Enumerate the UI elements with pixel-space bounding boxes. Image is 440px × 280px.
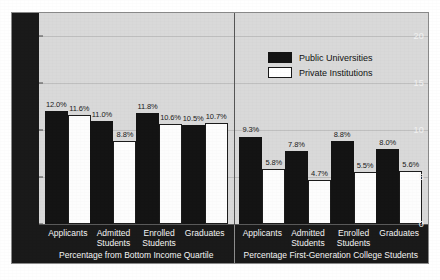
bar-value-label: 12.0% [46,101,67,109]
y-axis-tick-label: 10 [414,125,424,134]
legend-item-public: Public Universities [268,51,400,64]
grouped-bar-chart: 12.0%11.6%11.0%8.8%11.8%10.6%10.5%10.7%9… [0,0,440,280]
bar-value-label: 5.8% [265,159,282,167]
category-label: AdmittedStudents [97,229,131,248]
plot-area: 12.0%11.6%11.0%8.8%11.8%10.6%10.5%10.7%9… [39,13,428,225]
y-axis-tick-label: 0 [419,220,424,229]
bar-value-label: 4.7% [311,170,328,178]
y-axis-tick-label: 20 [414,31,424,40]
category-label: AdmittedStudents [291,229,325,248]
category-label-line: Students [142,239,176,249]
panel-title: Percentage from Bottom Income Quartile [59,250,214,260]
bar-public [239,137,262,225]
panel-divider-band [234,225,235,263]
panel-divider [234,13,235,225]
legend-swatch-public-icon [268,52,292,63]
bar-private [205,123,228,224]
category-label: Graduates [185,229,225,239]
category-label: Applicants [48,229,87,239]
category-label: Applicants [243,229,282,239]
category-label-line: Graduates [379,229,419,239]
chart-frame: 12.0%11.6%11.0%8.8%11.8%10.6%10.5%10.7%9… [12,13,428,263]
bar-value-label: 8.8% [117,131,134,139]
category-label: Graduates [379,229,419,239]
bar-value-label: 5.6% [402,161,419,169]
legend-label-public: Public Universities [299,53,373,63]
y-axis-tick-mark [39,35,43,36]
y-axis-tick-mark [39,129,43,130]
bar-value-label: 7.8% [288,141,305,149]
y-axis-tick-mark [39,176,43,177]
bar-private [159,124,182,224]
bar-private [308,180,331,224]
bar-public [136,113,159,224]
category-label: EnrolledStudents [337,229,371,248]
category-label-line: Graduates [185,229,225,239]
y-axis-tick-mark [39,224,43,225]
y-axis-tick-mark [39,82,43,83]
legend-item-private: Private Institutions [268,66,400,79]
y-axis-band [12,13,39,225]
bar-public [182,125,205,224]
legend-label-private: Private Institutions [299,68,373,78]
bar-value-label: 10.7% [206,113,227,121]
legend-swatch-private-icon [268,67,292,78]
bar-public [45,111,68,224]
bar-private [262,169,285,224]
bar-value-label: 5.5% [357,162,374,170]
category-label-line: Applicants [48,229,87,239]
category-label-line: Applicants [243,229,282,239]
bar-public [376,149,399,224]
bar-value-label: 10.5% [183,115,204,123]
bar-value-label: 10.6% [160,114,181,122]
bar-value-label: 8.8% [334,131,351,139]
bar-private [68,115,91,224]
bar-private [113,141,136,224]
panel-title: Percentage First-Generation College Stud… [244,250,418,260]
category-label-line: Students [291,239,325,249]
bar-value-label: 11.8% [137,103,157,111]
category-label-line: Students [97,239,131,249]
bar-value-label: 11.6% [69,105,89,113]
chart-legend: Public Universities Private Institutions [268,51,400,81]
category-label-line: Students [337,239,371,249]
bar-public [90,121,113,225]
bar-public [285,151,308,224]
bar-value-label: 11.0% [92,111,112,119]
bar-private [354,172,377,224]
bar-value-label: 8.0% [379,139,396,147]
category-label: EnrolledStudents [142,229,176,248]
bar-value-label: 9.3% [242,126,259,134]
bar-public [331,141,354,224]
y-axis-tick-label: 5 [419,172,424,181]
y-axis-tick-label: 15 [414,78,424,87]
